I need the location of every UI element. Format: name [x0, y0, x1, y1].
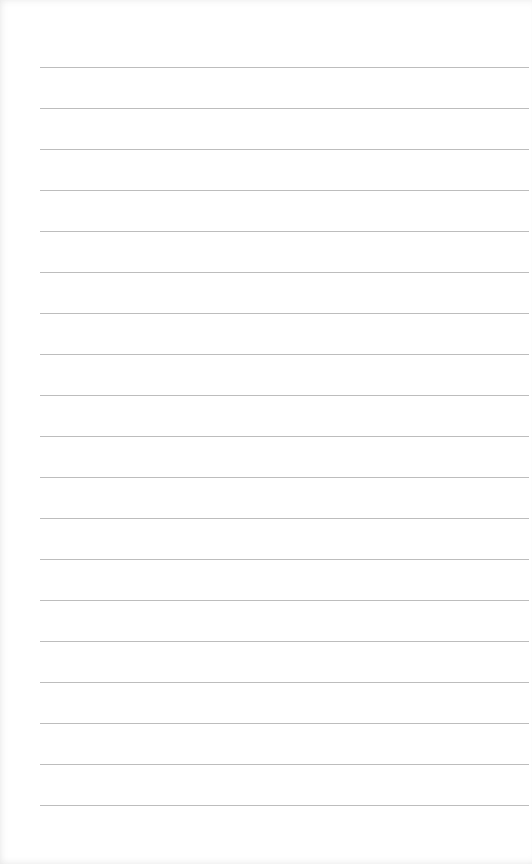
ruled-line	[40, 108, 529, 109]
ruled-line	[40, 682, 529, 683]
ruled-line	[40, 354, 529, 355]
ruled-line	[40, 313, 529, 314]
ruled-line	[40, 641, 529, 642]
ruled-line	[40, 436, 529, 437]
ruled-line	[40, 559, 529, 560]
lined-paper	[0, 0, 532, 864]
ruled-line	[40, 805, 529, 806]
ruled-line	[40, 272, 529, 273]
ruled-line	[40, 723, 529, 724]
ruled-line	[40, 149, 529, 150]
ruled-line	[40, 231, 529, 232]
ruled-line	[40, 600, 529, 601]
ruled-line	[40, 518, 529, 519]
ruled-line	[40, 477, 529, 478]
ruled-line	[40, 190, 529, 191]
ruled-line	[40, 764, 529, 765]
ruled-line	[40, 395, 529, 396]
ruled-line	[40, 67, 529, 68]
